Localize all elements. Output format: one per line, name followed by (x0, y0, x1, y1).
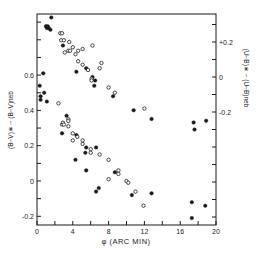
data-point-filled (150, 192, 154, 196)
scatter-plot: 048121620 -0.200.20.40.6 -0.20+0.2 φ (AR… (0, 0, 257, 256)
data-point-filled (84, 146, 88, 150)
y-left-axis-ticks: -0.200.20.40.6 (22, 22, 41, 220)
data-point-open (68, 40, 71, 43)
x-tick-label: 12 (141, 228, 149, 235)
data-point-open (71, 46, 74, 49)
data-point-open (90, 79, 93, 82)
x-tick-label: 20 (212, 228, 220, 235)
data-point-open (107, 178, 110, 181)
y-left-tick-label: 0 (30, 178, 34, 185)
data-point-open (81, 142, 84, 145)
data-point-open (62, 123, 65, 126)
data-point-open (100, 61, 103, 64)
data-point-open (71, 139, 74, 142)
data-point-open (127, 181, 130, 184)
y-left-axis-label: (B−V)∗ − (B−V)neb (7, 91, 15, 149)
data-point-filled (74, 158, 78, 162)
data-point-filled (41, 72, 45, 76)
data-point-open (107, 158, 110, 161)
x-tick-label: 8 (107, 228, 111, 235)
chart-container: 048121620 -0.200.20.40.6 -0.20+0.2 φ (AR… (0, 0, 257, 256)
data-point-open (62, 39, 65, 42)
data-point-open (142, 204, 145, 207)
y-right-tick-label: 0 (219, 74, 223, 81)
x-tick-label: 16 (176, 228, 184, 235)
data-point-filled (97, 186, 101, 190)
y-right-tick-label: -0.2 (219, 109, 231, 116)
data-point-filled (94, 146, 98, 150)
data-point-open (113, 91, 116, 94)
data-point-open (81, 47, 84, 50)
y-left-tick-label: 0.2 (24, 142, 34, 149)
data-point-filled (61, 44, 65, 48)
x-tick-label: 4 (71, 228, 75, 235)
data-point-open (143, 107, 146, 110)
data-point-open (98, 67, 101, 70)
data-point-filled (45, 100, 49, 104)
data-point-filled (130, 193, 134, 197)
data-point-filled (39, 94, 43, 98)
x-tick-label: 0 (35, 228, 39, 235)
x-axis-label: φ (ARC MIN) (101, 237, 150, 246)
data-point-open (117, 172, 120, 175)
y-left-tick-label: -0.2 (22, 213, 34, 220)
data-point-filled (203, 204, 207, 208)
data-point-open (81, 63, 84, 66)
data-point-open (76, 60, 79, 63)
data-point-filled (190, 216, 194, 220)
data-point-open (86, 68, 89, 71)
data-point-open (60, 32, 63, 35)
y-right-axis-ticks: -0.20+0.2 (212, 25, 233, 218)
data-point-filled (84, 151, 88, 155)
y-right-axis-label: (U−B)∗ − (U−B)neb (242, 49, 250, 108)
data-point-filled (42, 91, 46, 95)
data-point-filled (113, 170, 117, 174)
y-left-tick-label: 0.4 (24, 107, 34, 114)
data-point-open (57, 102, 60, 105)
y-left-tick-label: 0.6 (24, 72, 34, 79)
data-point-open (98, 153, 101, 156)
data-point-open (71, 132, 74, 135)
data-point-open (63, 51, 66, 54)
data-point-filled (204, 119, 208, 123)
data-point-filled (75, 70, 79, 74)
data-point-filled (150, 117, 154, 121)
data-point-open (81, 139, 84, 142)
data-point-open (89, 151, 92, 154)
data-point-open (74, 53, 77, 56)
data-point-filled (94, 190, 98, 194)
data-point-filled (84, 169, 88, 173)
data-point-open (76, 135, 79, 138)
data-point-filled (190, 200, 194, 204)
data-point-open (68, 49, 71, 52)
data-point-filled (50, 16, 54, 20)
data-point-open (117, 169, 120, 172)
data-point-filled (39, 98, 43, 102)
data-point-open (91, 44, 94, 47)
data-point-open (67, 119, 70, 122)
data-point-filled (65, 114, 69, 118)
x-axis-ticks: 048121620 (35, 221, 220, 235)
y-right-tick-label: +0.2 (219, 39, 233, 46)
data-point-filled (38, 84, 42, 88)
data-point-open (134, 190, 137, 193)
data-point-filled (192, 121, 196, 125)
data-point-filled (93, 79, 97, 83)
data-point-filled (193, 128, 197, 132)
data-point-filled (111, 94, 115, 98)
data-point-filled (60, 132, 64, 136)
data-point-open (67, 125, 70, 128)
data-point-filled (49, 28, 53, 32)
data-point-open (107, 86, 110, 89)
data-point-filled (132, 108, 136, 112)
data-point-filled (92, 84, 96, 88)
data-point-open (76, 49, 79, 52)
data-point-open (89, 148, 92, 151)
data-points (38, 16, 208, 220)
